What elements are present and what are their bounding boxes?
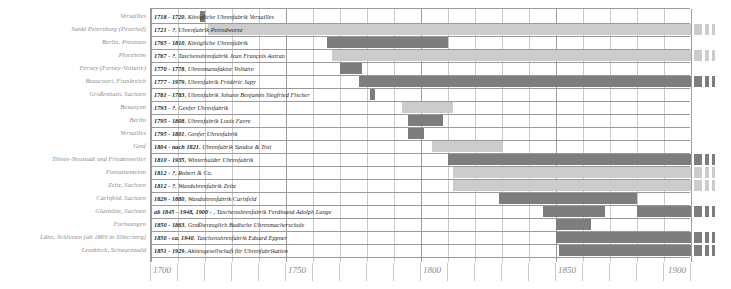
row-label: Lähn, Schlesien (ab 1869 in Silberberg) [40, 232, 146, 241]
axis-tick-1850 [555, 263, 556, 281]
axis-tick-1870 [609, 263, 610, 281]
bar-continuation-stub [694, 50, 702, 61]
bar-continuation-stub [694, 76, 702, 87]
plot-area: 1718 - 1720, Königliche Uhrenfabrik Vers… [150, 8, 690, 262]
axis-tick-label: 1700 [153, 265, 171, 275]
row-label: Genf [133, 141, 146, 150]
bar-continuation-stub [712, 206, 715, 217]
bar-continuation-stub [705, 245, 709, 256]
timeline-bar [448, 154, 691, 165]
timeline-bar [499, 193, 637, 204]
axis-tick-1900 [690, 263, 691, 281]
axis-tick-1810 [447, 263, 448, 281]
bar-label: 1804 - nach 1821, Uhrenfabrik Sandoz & T… [154, 141, 271, 152]
bar-continuation-stub [694, 167, 702, 178]
timeline-bar [453, 180, 691, 191]
axis-tick-label: 1850 [558, 265, 576, 275]
bar-continuation-stub [694, 24, 702, 35]
bar-label: 1795 - 1808, Uhrenfabrik Louis Favre [154, 115, 251, 126]
bar-continuation-stub [705, 50, 709, 61]
bar-label: 1850 - ca. 1940, Taschenuhrenfabrik Edua… [154, 232, 287, 243]
timeline-bar [559, 245, 691, 256]
gridline-1810 [448, 9, 449, 262]
bar-continuation-stub [712, 50, 715, 61]
bar-continuation-stub [712, 76, 715, 87]
row-separator [151, 257, 690, 258]
axis-tick-1740 [258, 263, 259, 281]
bar-continuation-stub [705, 154, 709, 165]
bar-continuation-stub [705, 206, 709, 217]
timeline-bar [370, 89, 375, 100]
row-label: Carlsfeld, Sachsen [96, 193, 146, 202]
row-label: Furtwangen [114, 219, 146, 228]
x-axis: 17001750180018501900 [150, 263, 690, 283]
bar-label: 1812 - ?, Robert & Co. [154, 167, 212, 178]
axis-tick-label: 1750 [288, 265, 306, 275]
bar-continuation-stub [712, 245, 715, 256]
axis-tick-1880 [636, 263, 637, 281]
bar-label: 1795 - 1801, Genfer Uhrenfabrik [154, 128, 238, 139]
axis-tick-1830 [501, 263, 502, 281]
row-label: Pforzheim [119, 50, 146, 59]
row-label: Ferney (Ferney-Voltaire) [79, 63, 146, 72]
timeline-bar [402, 102, 453, 113]
row-label: Versailles [120, 128, 146, 137]
gridline-1900 [691, 9, 692, 262]
timeline-bar [208, 24, 691, 35]
axis-tick-1790 [393, 263, 394, 281]
row-label: Besançon [120, 102, 146, 111]
bar-label: 1781 - 1783, Uhrenfabrik Johann Benjamin… [154, 89, 310, 100]
timeline-bar [408, 115, 443, 126]
bar-label: 1765 - 1810, Königliche Uhrenfabrik [154, 37, 248, 48]
axis-tick-1890 [663, 263, 664, 281]
row-label: Fontainemelon [106, 167, 146, 176]
bar-continuation-stub [694, 206, 702, 217]
bar-continuation-stub [705, 76, 709, 87]
gridline-1830 [502, 9, 503, 262]
bar-label: 1829 - 1880, Wanduhrenfabrik Carlsfeld [154, 193, 256, 204]
timeline-bar [453, 167, 691, 178]
bar-continuation-stub [705, 24, 709, 35]
gridline-1840 [529, 9, 530, 262]
gridline-1700 [151, 9, 152, 262]
bar-continuation-stub [712, 180, 715, 191]
timeline-bar [408, 128, 424, 139]
axis-tick-1820 [474, 263, 475, 281]
timeline-bar [340, 63, 362, 74]
axis-tick-1730 [231, 263, 232, 281]
bar-label: 1812 - ?, Wanduhrenfabrik Zeitz [154, 180, 236, 191]
bar-label: 1851 - 1929, Aktiengesellschaft für Uhre… [154, 245, 288, 256]
bar-continuation-stub [712, 24, 715, 35]
timeline-bar [432, 141, 502, 152]
bar-continuation-stub [694, 232, 702, 243]
bar-label: 1850 - 1863, Großherzoglich Badische Uhr… [154, 219, 304, 230]
bar-continuation-stub [712, 232, 715, 243]
gridline-1880 [637, 9, 638, 262]
timeline-bar [637, 206, 691, 217]
row-label: Titisee-Neustadt und Friedenweiler [52, 154, 146, 163]
axis-tick-label: 1800 [423, 265, 441, 275]
bar-continuation-stub [712, 154, 715, 165]
gridline-1870 [610, 9, 611, 262]
axis-tick-1770 [339, 263, 340, 281]
row-label: Großenhain, Sachsen [89, 89, 146, 98]
bar-continuation-stub [705, 180, 709, 191]
axis-tick-1800 [420, 263, 421, 281]
row-label: Zeitz, Sachsen [108, 180, 146, 189]
bar-label: 1767 - ?, Taschenuhrenfabrik Jean Franço… [154, 50, 285, 61]
bar-label: 1770 - 1778, Uhrenmanufaktur Voltaire [154, 63, 254, 74]
axis-tick-label: 1900 [668, 265, 686, 275]
gridline-1760 [313, 9, 314, 262]
bar-continuation-stub [694, 154, 702, 165]
bar-label: 1777 - 1979, Uhrenfabrik Frédéric Japy [154, 76, 256, 87]
timeline-chart: VersaillesSankt Petersburg (Peterhof)Ber… [0, 0, 731, 289]
bar-continuation-stub [705, 167, 709, 178]
bar-label: 1793 - ?, Genfer Uhrenfabrik [154, 102, 228, 113]
timeline-bar [359, 76, 691, 87]
bar-label: 1810 - 1935, Winterhalder Uhrenfabrik [154, 154, 253, 165]
axis-tick-1860 [582, 263, 583, 281]
row-label: Sankt Petersburg (Peterhof) [72, 24, 146, 33]
bar-continuation-stub [712, 167, 715, 178]
bar-label: ab 1845 - 1948, 1900 - , Taschenuhrenfab… [154, 206, 331, 217]
bar-continuation-stub [705, 232, 709, 243]
